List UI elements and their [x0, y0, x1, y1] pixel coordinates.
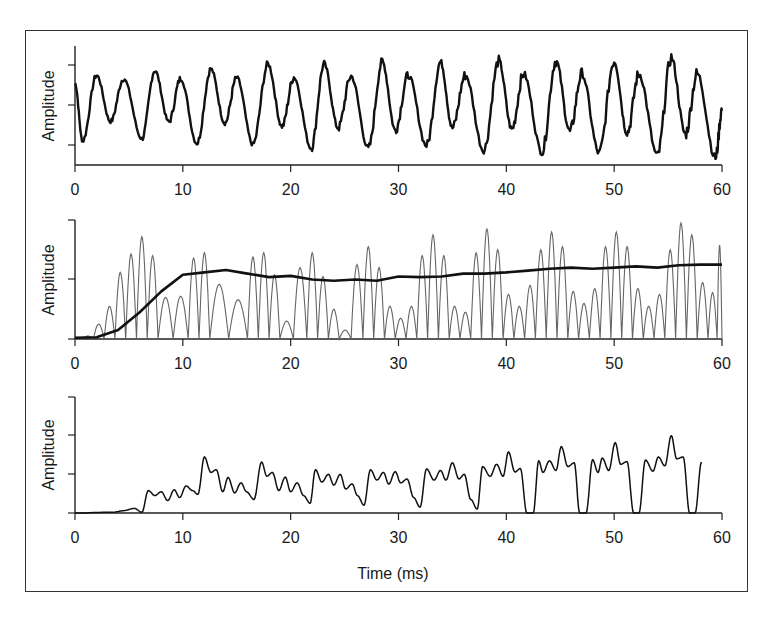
y-axis-title: Amplitude	[40, 70, 57, 141]
panel-rectified-envelope: Amplitude 0102030405060	[40, 220, 731, 372]
y-axis-title: Amplitude	[40, 244, 57, 315]
y-axis-title: Amplitude	[40, 419, 57, 490]
x-tick-label: 50	[605, 529, 623, 546]
x-tick-label: 60	[713, 181, 731, 198]
x-tick-label: 40	[497, 529, 515, 546]
x-tick-label: 60	[713, 355, 731, 372]
x-tick-label: 10	[174, 529, 192, 546]
figure-canvas: Amplitude 0102030405060 Amplitude 010203…	[0, 0, 767, 622]
x-tick-label: 50	[605, 181, 623, 198]
x-tick-label: 20	[282, 181, 300, 198]
x-tick-label: 30	[390, 529, 408, 546]
x-tick-label: 20	[282, 355, 300, 372]
output-line	[75, 436, 702, 513]
x-axis-title: Time (ms)	[357, 565, 428, 582]
x-tick-label: 20	[282, 529, 300, 546]
rectified-oscillation-line	[75, 223, 722, 339]
x-tick-label: 40	[497, 355, 515, 372]
panel-waveform: Amplitude 0102030405060	[40, 46, 731, 198]
waveform-line	[75, 54, 722, 159]
x-tick-label: 50	[605, 355, 623, 372]
x-tick-label: 0	[71, 181, 80, 198]
x-tick-label: 60	[713, 529, 731, 546]
panel-output: Amplitude 0102030405060	[40, 397, 731, 546]
x-tick-label: 10	[174, 355, 192, 372]
axes: 0102030405060	[68, 220, 731, 372]
x-tick-label: 0	[71, 529, 80, 546]
x-tick-label: 0	[71, 355, 80, 372]
x-tick-label: 40	[497, 181, 515, 198]
x-tick-label: 30	[390, 355, 408, 372]
axes: 0102030405060	[68, 397, 731, 546]
x-tick-label: 30	[390, 181, 408, 198]
x-tick-label: 10	[174, 181, 192, 198]
